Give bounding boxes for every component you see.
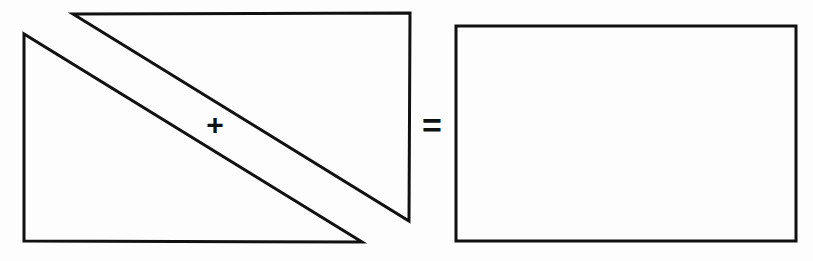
figure-canvas	[0, 0, 813, 261]
geometry-figure: + =	[0, 0, 813, 261]
rectangle-result	[456, 26, 796, 241]
triangle-lower-left	[24, 34, 362, 242]
triangle-upper-right	[73, 13, 410, 221]
equals-sign: =	[414, 108, 450, 146]
plus-sign: +	[199, 110, 231, 144]
